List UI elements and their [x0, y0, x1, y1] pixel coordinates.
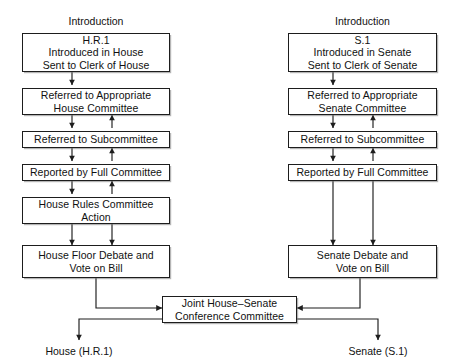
node-house-referred-subcommittee-label: Referred to Subcommittee: [31, 133, 161, 146]
node-senate-intro[interactable]: S.1 Introduced in Senate Sent to Clerk o…: [288, 33, 437, 72]
flowchart-canvas: Introduction H.R.1 Introduced in House S…: [0, 0, 459, 364]
node-house-referred-committee[interactable]: Referred to Appropriate House Committee: [22, 88, 170, 115]
node-house-reported-full-committee[interactable]: Reported by Full Committee: [22, 164, 170, 181]
house-column-heading: Introduction: [22, 15, 170, 28]
node-house-floor-debate[interactable]: House Floor Debate and Vote on Bill: [22, 245, 170, 278]
node-senate-referred-committee-label: Referred to Appropriate Senate Committee: [304, 89, 420, 114]
node-house-referred-committee-label: Referred to Appropriate House Committee: [38, 89, 154, 114]
senate-column-heading: Introduction: [288, 15, 437, 28]
node-house-intro-label: H.R.1 Introduced in House Sent to Clerk …: [40, 34, 153, 72]
outcome-label-senate: Senate (S.1): [328, 345, 428, 358]
node-senate-intro-label: S.1 Introduced in Senate Sent to Clerk o…: [305, 34, 421, 72]
node-senate-floor-debate[interactable]: Senate Debate and Vote on Bill: [288, 245, 437, 278]
node-senate-referred-subcommittee-label: Referred to Subcommittee: [298, 133, 428, 146]
node-senate-floor-debate-label: Senate Debate and Vote on Bill: [314, 249, 411, 274]
node-senate-referred-committee[interactable]: Referred to Appropriate Senate Committee: [288, 88, 437, 115]
node-joint-conference-committee[interactable]: Joint House–Senate Conference Committee: [162, 296, 297, 323]
node-house-intro[interactable]: H.R.1 Introduced in House Sent to Clerk …: [22, 33, 170, 72]
node-house-floor-debate-label: House Floor Debate and Vote on Bill: [35, 249, 157, 274]
node-house-reported-full-committee-label: Reported by Full Committee: [27, 166, 165, 179]
node-senate-referred-subcommittee[interactable]: Referred to Subcommittee: [288, 131, 437, 148]
node-house-referred-subcommittee[interactable]: Referred to Subcommittee: [22, 131, 170, 148]
node-senate-reported-full-committee[interactable]: Reported by Full Committee: [288, 164, 437, 181]
node-joint-conference-committee-label: Joint House–Senate Conference Committee: [172, 297, 287, 322]
node-senate-reported-full-committee-label: Reported by Full Committee: [293, 166, 431, 179]
node-house-rules-committee-label: House Rules Committee Action: [36, 198, 157, 223]
outcome-label-house: House (H.R.1): [29, 345, 129, 358]
node-house-rules-committee[interactable]: House Rules Committee Action: [22, 197, 170, 224]
